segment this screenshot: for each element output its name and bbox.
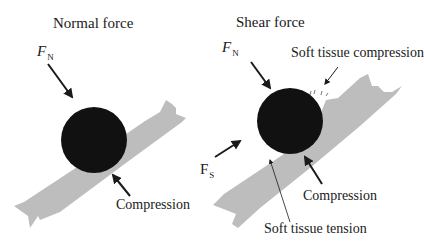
normal-force-title: Normal force bbox=[53, 16, 133, 31]
soft-tissue-compression-arrow bbox=[325, 67, 338, 84]
ball-right bbox=[257, 88, 323, 154]
normal-force-symbol-right: FN bbox=[222, 40, 239, 55]
compression-arrow-left bbox=[113, 175, 130, 196]
shear-force-panel bbox=[213, 62, 402, 228]
force-diagram: Normal force FN Compression Shear force … bbox=[0, 0, 424, 248]
shear-force-arrow bbox=[241, 157, 243, 158]
compression-label-left: Compression bbox=[116, 198, 190, 212]
normal-force-arrow-right bbox=[251, 62, 270, 88]
normal-force-letter-right: F bbox=[222, 39, 231, 55]
normal-force-symbol: FN bbox=[37, 44, 54, 59]
shear-arrow bbox=[215, 141, 240, 157]
shear-force-title: Shear force bbox=[236, 15, 305, 30]
compression-label-right: Compression bbox=[303, 189, 377, 203]
normal-force-arrow bbox=[48, 64, 72, 97]
shear-force-subscript: S bbox=[209, 170, 214, 180]
soft-tissue-compression-label: Soft tissue compression bbox=[291, 46, 424, 60]
ball-left bbox=[61, 107, 127, 173]
compression-tick-marks bbox=[310, 90, 328, 96]
shear-force-arrow-line bbox=[241, 157, 244, 159]
soft-tissue-tension-label: Soft tissue tension bbox=[264, 222, 367, 236]
normal-force-letter: F bbox=[37, 43, 46, 59]
shear-force-letter: F bbox=[200, 161, 208, 177]
normal-force-subscript-right: N bbox=[232, 48, 239, 58]
shear-force-symbol: FS bbox=[200, 162, 214, 177]
normal-force-subscript: N bbox=[47, 52, 54, 62]
